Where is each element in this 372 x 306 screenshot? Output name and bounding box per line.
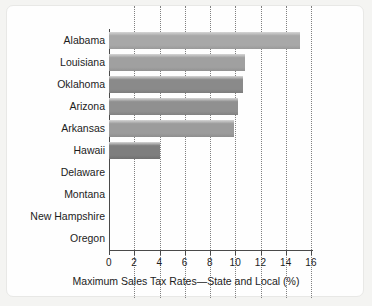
bar-fill xyxy=(109,54,245,71)
category-label-louisiana: Louisiana xyxy=(0,56,105,68)
bar-louisiana xyxy=(109,54,245,71)
bar-chart: 0246810121416 AlabamaLouisianaOklahomaAr… xyxy=(7,6,365,298)
x-tick-mark xyxy=(134,250,135,255)
x-tick-label: 6 xyxy=(172,257,198,268)
bar-alabama xyxy=(109,32,300,49)
bar-fill xyxy=(109,98,238,115)
category-label-delaware: Delaware xyxy=(0,166,105,178)
category-label-hawaii: Hawaii xyxy=(0,144,105,156)
x-tick-label: 2 xyxy=(121,257,147,268)
x-tick-label: 10 xyxy=(222,257,248,268)
bar-oklahoma xyxy=(109,76,243,93)
x-axis-title: Maximum Sales Tax Rates—State and Local … xyxy=(7,275,365,287)
x-tick-mark xyxy=(109,250,110,255)
x-axis-line xyxy=(109,250,313,251)
bar-fill xyxy=(109,76,243,93)
bar-arizona xyxy=(109,98,238,115)
x-tick-mark xyxy=(210,250,211,255)
x-tick-mark xyxy=(185,250,186,255)
chart-card: 0246810121416 AlabamaLouisianaOklahomaAr… xyxy=(6,5,364,297)
bar-fill xyxy=(109,142,160,159)
x-tick-label: 12 xyxy=(248,257,274,268)
bar-fill xyxy=(109,120,234,137)
category-label-arizona: Arizona xyxy=(0,100,105,112)
category-label-alabama: Alabama xyxy=(0,34,105,46)
x-tick-mark xyxy=(311,250,312,255)
x-tick-label: 16 xyxy=(298,257,324,268)
x-tick-mark xyxy=(261,250,262,255)
x-tick-label: 0 xyxy=(96,257,122,268)
x-tick-label: 8 xyxy=(197,257,223,268)
category-label-montana: Montana xyxy=(0,188,105,200)
x-tick-mark xyxy=(286,250,287,255)
x-tick-mark xyxy=(160,250,161,255)
bar-arkansas xyxy=(109,120,234,137)
bar-hawaii xyxy=(109,142,160,159)
bar-fill xyxy=(109,32,300,49)
category-label-new-hampshire: New Hampshire xyxy=(0,210,105,222)
x-tick-mark xyxy=(235,250,236,255)
category-label-oregon: Oregon xyxy=(0,232,105,244)
x-tick-label: 14 xyxy=(273,257,299,268)
category-label-arkansas: Arkansas xyxy=(0,122,105,134)
category-label-oklahoma: Oklahoma xyxy=(0,78,105,90)
x-tick-label: 4 xyxy=(147,257,173,268)
